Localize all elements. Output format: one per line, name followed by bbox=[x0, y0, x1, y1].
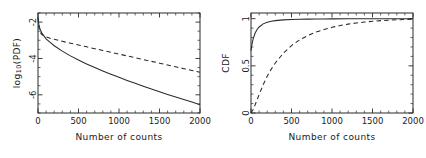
y-tick-label: -2 bbox=[28, 18, 38, 26]
x-tick-label: 1500 bbox=[149, 116, 171, 126]
x-axis-title: Number of counts bbox=[288, 132, 375, 142]
figure-two-panel-plot: 0500100015002000-2-4-6Number of countslo… bbox=[0, 0, 426, 158]
x-tick-label: 1000 bbox=[108, 116, 130, 126]
x-tick-label: 2000 bbox=[402, 116, 424, 126]
panel-pdf-svg: 0500100015002000-2-4-6Number of countslo… bbox=[0, 0, 213, 158]
y-tick-label: 0.5 bbox=[241, 59, 251, 73]
panel-cdf: 050010001500200000.51Number of countsCDF bbox=[213, 0, 426, 158]
curve-solid bbox=[38, 18, 200, 105]
x-axis-title: Number of counts bbox=[75, 132, 162, 142]
curve-dashed bbox=[251, 19, 413, 113]
panel-cdf-svg: 050010001500200000.51Number of countsCDF bbox=[213, 0, 426, 158]
y-axis-title: log10(PDF) bbox=[12, 38, 23, 89]
x-tick-label: 500 bbox=[283, 116, 299, 126]
panel-pdf: 0500100015002000-2-4-6Number of countslo… bbox=[0, 0, 213, 158]
plot-frame bbox=[38, 13, 200, 113]
x-tick-label: 2000 bbox=[189, 116, 211, 126]
x-tick-label: 500 bbox=[70, 116, 86, 126]
x-tick-label: 0 bbox=[35, 116, 40, 126]
y-tick-label: 0 bbox=[241, 110, 251, 115]
y-tick-label: -6 bbox=[28, 91, 38, 99]
y-axis-title: CDF bbox=[221, 53, 231, 73]
x-tick-label: 0 bbox=[248, 116, 253, 126]
x-tick-label: 1500 bbox=[362, 116, 384, 126]
curve-solid bbox=[251, 19, 413, 51]
curve-dashed bbox=[38, 18, 200, 73]
x-tick-label: 1000 bbox=[321, 116, 343, 126]
y-tick-label: 1 bbox=[241, 16, 251, 21]
y-tick-label: -4 bbox=[28, 54, 38, 62]
